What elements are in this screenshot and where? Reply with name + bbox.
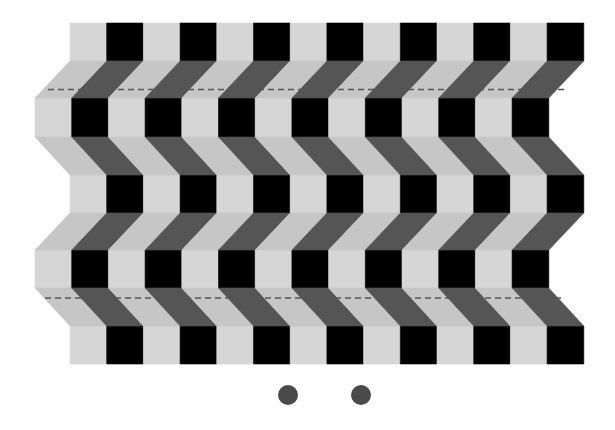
dark-tile <box>180 23 217 61</box>
dark-tile <box>219 250 256 288</box>
light-tile <box>402 98 439 137</box>
dark-tile <box>547 175 584 213</box>
light-tile <box>402 250 439 288</box>
dark-tile <box>547 326 584 364</box>
dark-tile <box>400 175 437 213</box>
light-tile <box>475 250 512 288</box>
dark-tile <box>219 98 256 137</box>
illusion-canvas <box>0 0 615 430</box>
light-tile <box>70 23 107 61</box>
light-tile <box>182 98 219 137</box>
dark-tile <box>145 250 182 288</box>
light-tile <box>108 250 145 288</box>
light-tile <box>290 23 327 61</box>
dot-marker <box>351 385 371 405</box>
dark-tile <box>512 250 549 288</box>
dark-tile <box>365 250 402 288</box>
dark-tile <box>439 250 476 288</box>
dark-tile <box>107 175 144 213</box>
dark-tile <box>254 175 291 213</box>
light-tile <box>329 98 366 137</box>
dark-tile <box>439 98 476 137</box>
dark-tile <box>254 23 291 61</box>
light-tile <box>510 326 547 364</box>
light-tile <box>475 98 512 137</box>
dot-marker <box>278 385 298 405</box>
light-tile <box>255 98 292 137</box>
light-tile <box>329 250 366 288</box>
dark-tile <box>327 23 364 61</box>
light-tile <box>70 326 107 364</box>
light-tile <box>35 250 72 288</box>
light-tile <box>143 326 180 364</box>
dark-tile <box>145 98 182 137</box>
dark-tile <box>72 250 109 288</box>
light-tile <box>255 250 292 288</box>
light-tile <box>35 98 72 137</box>
light-tile <box>70 175 107 213</box>
zigzag-illusion-figure <box>0 0 615 430</box>
light-tile <box>364 326 401 364</box>
dark-tile <box>292 250 329 288</box>
dark-tile <box>474 23 511 61</box>
light-tile <box>182 250 219 288</box>
light-tile <box>217 175 254 213</box>
light-tile <box>217 326 254 364</box>
dark-tile <box>400 23 437 61</box>
light-tile <box>437 23 474 61</box>
light-tile <box>437 326 474 364</box>
light-tile <box>437 175 474 213</box>
dark-tile <box>474 175 511 213</box>
dark-tile <box>72 98 109 137</box>
light-tile <box>290 175 327 213</box>
dark-tile <box>547 23 584 61</box>
light-tile <box>217 23 254 61</box>
light-tile <box>108 98 145 137</box>
light-tile <box>510 175 547 213</box>
dark-tile <box>365 98 402 137</box>
light-tile <box>510 23 547 61</box>
dark-tile <box>292 98 329 137</box>
light-tile <box>143 23 180 61</box>
dark-tile <box>107 326 144 364</box>
dark-tile <box>107 23 144 61</box>
light-tile <box>364 175 401 213</box>
light-tile <box>290 326 327 364</box>
dark-tile <box>474 326 511 364</box>
dark-tile <box>180 326 217 364</box>
dark-tile <box>512 98 549 137</box>
dark-tile <box>254 326 291 364</box>
dark-tile <box>327 326 364 364</box>
dark-tile <box>180 175 217 213</box>
dark-tile <box>327 175 364 213</box>
light-tile <box>364 23 401 61</box>
dark-tile <box>400 326 437 364</box>
light-tile <box>143 175 180 213</box>
